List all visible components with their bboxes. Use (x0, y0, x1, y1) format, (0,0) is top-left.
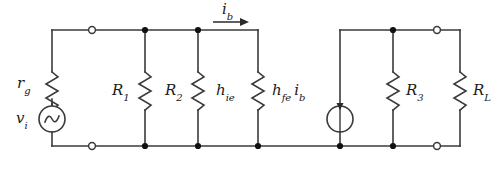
junction-dot (337, 143, 343, 149)
r3-label: R3 (406, 83, 424, 101)
junction-dot (390, 143, 396, 149)
r1-label: R1 (112, 83, 130, 101)
rg-label: rg (17, 76, 31, 94)
junction-dot (195, 27, 201, 33)
hie-label: hie (216, 83, 235, 101)
junction-dot (390, 27, 396, 33)
terminal-input-top (89, 27, 96, 34)
terminal-input-bottom (89, 143, 96, 150)
junction-dot (142, 143, 148, 149)
junction-dot (142, 27, 148, 33)
resistor-r1 (139, 72, 151, 110)
junction-dot (195, 143, 201, 149)
terminal-output-bottom (434, 143, 441, 150)
terminal-output-top (434, 27, 441, 34)
open-terminals (89, 27, 441, 150)
circuit-diagram: rg vi R1 R2 hie hfeib R3 RL ib (0, 0, 500, 175)
resistor-r2 (192, 72, 204, 110)
hfe-ib-label: hfeib (272, 83, 306, 101)
resistor-r3 (387, 72, 399, 110)
resistor-hie (252, 72, 264, 110)
circuit-schematic-svg (0, 0, 500, 175)
ib-label: ib (222, 2, 233, 20)
junction-dot (255, 143, 261, 149)
vi-label: vi (16, 111, 28, 129)
resistor-rl (454, 72, 466, 110)
rl-label: RL (473, 83, 491, 101)
r2-label: R2 (165, 83, 183, 101)
